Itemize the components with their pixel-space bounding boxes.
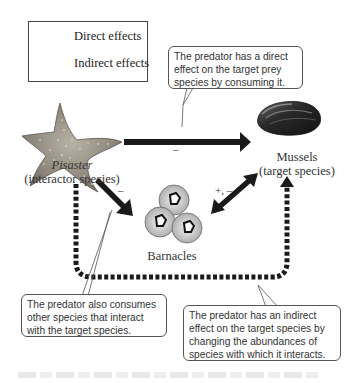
sign-pisaster-barnacles: – bbox=[118, 184, 124, 196]
callout-pointer-direct bbox=[182, 88, 193, 127]
barnacles-illustration bbox=[145, 185, 202, 243]
sign-pisaster-mussels: – bbox=[173, 143, 179, 155]
legend-indirect-row: Indirect effects bbox=[29, 53, 147, 73]
pisaster-label: Pisaster (interactor species) bbox=[12, 158, 132, 186]
legend-direct-row: Direct effects bbox=[29, 26, 147, 46]
callout-indirect-effect: The predator has an indirect effect on t… bbox=[183, 305, 341, 361]
mussel-illustration bbox=[258, 102, 321, 136]
figure-caption-faint bbox=[18, 372, 318, 378]
pisaster-role: (interactor species) bbox=[12, 172, 132, 186]
barnacles-name: Barnacles bbox=[132, 249, 212, 263]
legend-indirect-label: Indirect effects bbox=[74, 56, 149, 71]
mussels-label: Mussels (target species) bbox=[247, 150, 347, 178]
callout-also-consumes: The predator also consumes other species… bbox=[21, 294, 167, 337]
barnacles-label: Barnacles bbox=[132, 249, 212, 263]
pisaster-name: Pisaster bbox=[12, 158, 132, 172]
direct-arrow-pisaster-to-mussels bbox=[124, 132, 251, 152]
mussels-name: Mussels bbox=[247, 150, 347, 164]
mussels-role: (target species) bbox=[247, 164, 347, 178]
callout-pointer-also-consumes bbox=[82, 210, 112, 296]
callout-pointer-indirect bbox=[258, 285, 278, 307]
sign-barnacles-mussels: +, – bbox=[215, 184, 232, 196]
legend-direct-label: Direct effects bbox=[74, 29, 141, 44]
legend-box: Direct effects Indirect effects bbox=[28, 21, 148, 82]
callout-direct-effect: The predator has a direct effect on the … bbox=[168, 46, 303, 89]
